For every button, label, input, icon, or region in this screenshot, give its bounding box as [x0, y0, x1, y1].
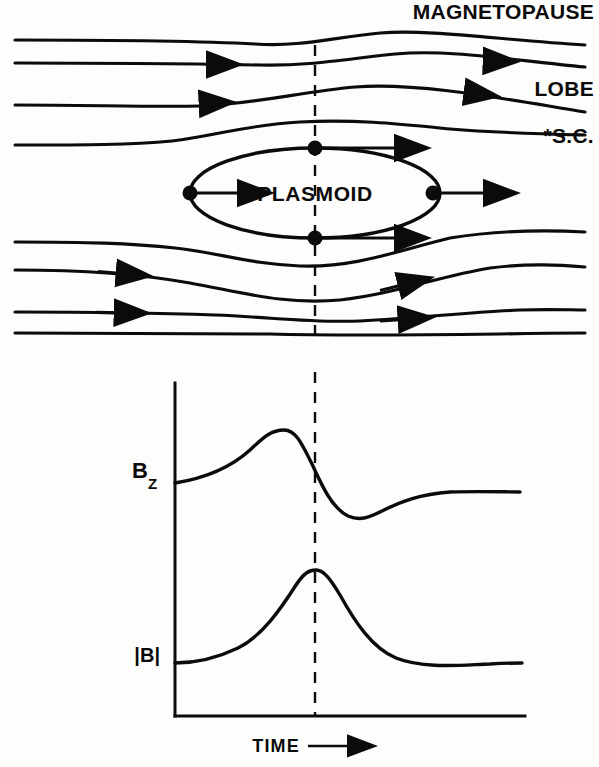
- label-bz-main: B: [132, 458, 148, 483]
- label-magnetopause: MAGNETOPAUSE: [413, 0, 594, 23]
- label-plasmoid: PLASMOID: [257, 182, 373, 205]
- label-bz-subscript: Z: [148, 475, 157, 492]
- south-neutral-point: [308, 231, 401, 246]
- label-b-magnitude: |B|: [134, 644, 160, 666]
- plasmoid-diagram-canvas: MAGNETOPAUSE LOBE *S.C. PLASMOID B Z |B|: [0, 0, 599, 767]
- field-line-separatrix-north: [15, 121, 585, 145]
- arrow-lobe-south-2b: [380, 319, 404, 321]
- lower-panel-signature-plot: B Z |B| TIME: [132, 372, 525, 756]
- field-line-lobe-north-1: [15, 32, 585, 45]
- label-bz: B Z: [132, 458, 157, 492]
- label-lobe: LOBE: [534, 77, 594, 100]
- north-neutral-point: [308, 141, 401, 156]
- figure-root: MAGNETOPAUSE LOBE *S.C. PLASMOID B Z |B|: [0, 0, 599, 767]
- east-neutral-point: [426, 186, 490, 201]
- arrow-lobe-north-2b: [489, 61, 512, 62]
- arrow-lobe-north-3: [205, 103, 228, 104]
- west-neutral-point: [183, 186, 244, 201]
- field-line-lobe-north-3: [15, 86, 585, 112]
- trace-bz: [175, 430, 520, 518]
- x-axis-label-group: TIME: [252, 736, 352, 756]
- field-line-lobe-south-3: [15, 333, 585, 335]
- arrow-lobe-south-1: [98, 272, 122, 274]
- label-time: TIME: [252, 736, 300, 756]
- trace-b-magnitude: [175, 570, 522, 666]
- label-spacecraft: *S.C.: [543, 124, 594, 147]
- upper-panel-field-topology: MAGNETOPAUSE LOBE *S.C. PLASMOID: [15, 0, 594, 340]
